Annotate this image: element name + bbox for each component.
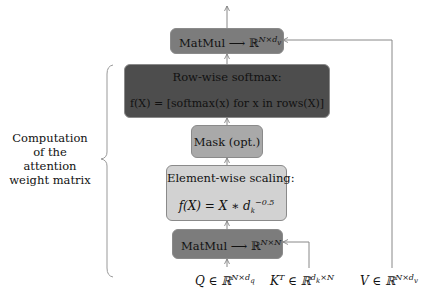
- top-matmul-label: MatMul ⟶ ℝN×dv: [179, 35, 281, 50]
- top-matmul-box: MatMul ⟶ ℝN×dv: [170, 28, 284, 54]
- scaling-box: Element-wise scaling: f(X) = X ∗ dk−0.5: [166, 165, 287, 221]
- brace-label-line: weight matrix: [4, 173, 96, 187]
- softmax-formula: f(X) = [softmax(x) for x in rows(X)]: [125, 97, 329, 110]
- bottom-matmul-box: MatMul ⟶ ℝN×N: [172, 229, 283, 259]
- brace-label-line: of the: [4, 145, 96, 159]
- brace-label: Computation of the attention weight matr…: [4, 131, 96, 187]
- brace-label-line: attention: [4, 159, 96, 173]
- input-q: Q ∈ ℝN×dq: [195, 273, 255, 288]
- mask-box: Mask (opt.): [191, 125, 263, 158]
- mask-label: Mask (opt.): [192, 135, 262, 149]
- scaling-formula: f(X) = X ∗ dk−0.5: [167, 198, 286, 215]
- bottom-matmul-label: MatMul ⟶ ℝN×N: [181, 238, 281, 253]
- scaling-title: Element-wise scaling:: [167, 171, 286, 185]
- input-k-transpose: KT ∈ ℝdk×N: [270, 273, 334, 288]
- brace-label-line: Computation: [4, 131, 96, 145]
- softmax-box: Row-wise softmax: f(X) = [softmax(x) for…: [124, 64, 330, 118]
- softmax-title: Row-wise softmax:: [125, 70, 329, 84]
- input-v: V ∈ ℝN×dv: [360, 273, 418, 288]
